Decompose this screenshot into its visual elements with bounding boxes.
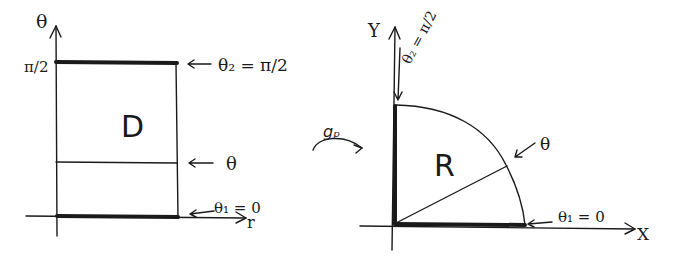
region-r-label: R — [434, 148, 455, 183]
y-axis-label: Y — [367, 20, 381, 41]
theta1-right-label: θ₁ = 0 — [558, 208, 605, 226]
annotation-theta-radial: θ — [515, 134, 550, 157]
theta-axis-label: θ — [36, 10, 47, 32]
right-panel: Y X R θ₂ = π/2 θ θ₁ = 0 — [360, 8, 650, 250]
theta-line-label: θ — [226, 153, 237, 174]
left-arrow-icon — [190, 210, 214, 217]
right-edge — [176, 63, 178, 218]
left-arrow-icon — [188, 60, 211, 68]
top-edge-theta2 — [56, 62, 177, 63]
x-axis-label: X — [637, 224, 650, 244]
arc-boundary — [396, 105, 525, 225]
annotation-theta1-right: θ₁ = 0 — [528, 208, 605, 227]
horizontal-edge-theta1 — [395, 224, 525, 225]
left-arrow-icon — [189, 159, 213, 167]
region-d-label: D — [121, 109, 144, 144]
annotation-theta1: θ₁ = 0 — [190, 199, 261, 217]
region-d-rectangle — [56, 62, 178, 218]
left-panel: θ r π/2 D θ₂ = π/2 θ θ₁ = 0 — [24, 10, 288, 236]
polar-mapping-diagram: θ r π/2 D θ₂ = π/2 θ θ₁ = 0 gₚ — [0, 0, 676, 265]
diagonal-arrow-icon — [515, 143, 535, 157]
theta-line — [56, 162, 177, 163]
region-r-quarter-disk — [395, 105, 525, 225]
left-arrow-icon — [528, 220, 552, 227]
pi-over-2-tick-label: π/2 — [24, 58, 48, 76]
theta-axis — [50, 26, 61, 236]
annotation-theta2-right: θ₂ = π/2 — [394, 8, 440, 100]
mapping-g-p: gₚ — [313, 122, 362, 153]
theta2-label: θ₂ = π/2 — [218, 55, 288, 75]
annotation-theta-line: θ — [189, 153, 237, 174]
annotation-theta2: θ₂ = π/2 — [188, 55, 288, 75]
theta-radial-label: θ — [540, 134, 550, 154]
bottom-edge-theta1 — [57, 216, 178, 217]
theta1-label: θ₁ = 0 — [214, 199, 261, 217]
mapping-label: gₚ — [323, 122, 340, 141]
theta2-right-label: θ₂ = π/2 — [399, 8, 440, 66]
